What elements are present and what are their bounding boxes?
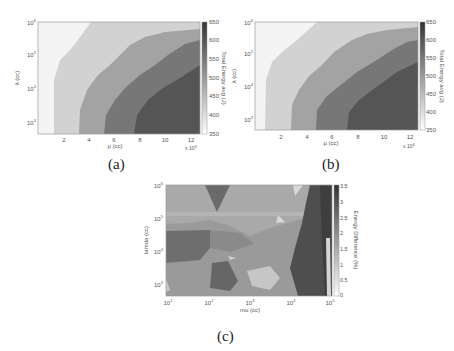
svg-text:500: 500 xyxy=(426,73,437,79)
x-ticks-b: 246 81012 xyxy=(279,134,414,140)
contour-regions-c xyxy=(166,185,332,296)
svg-text:103: 103 xyxy=(244,115,254,123)
y-axis-label-a: λ (cc) xyxy=(14,71,20,86)
svg-text:104: 104 xyxy=(154,247,164,255)
svg-text:400: 400 xyxy=(426,109,437,115)
x-ticks-c: 101 102 103 104 105 xyxy=(164,298,336,306)
svg-text:103: 103 xyxy=(154,280,164,288)
svg-text:8: 8 xyxy=(356,134,360,140)
svg-text:102: 102 xyxy=(205,298,215,306)
colorbar-ticks-b: 650600550 500450400350 xyxy=(426,19,437,133)
colorbar-label-c: Energy Difference (%) xyxy=(353,211,359,270)
svg-text:600: 600 xyxy=(426,37,437,43)
svg-text:650: 650 xyxy=(209,19,220,25)
svg-text:400: 400 xyxy=(209,112,220,118)
svg-text:4: 4 xyxy=(87,137,91,143)
colorbar-label-b: Total Energy avg (J) xyxy=(439,49,445,102)
x-multiplier-a: x 104 xyxy=(185,144,197,150)
svg-text:2: 2 xyxy=(62,137,66,143)
y-ticks-c: 106 105 104 103 xyxy=(154,181,164,288)
svg-text:450: 450 xyxy=(209,93,220,99)
svg-text:8: 8 xyxy=(138,137,142,143)
svg-text:550: 550 xyxy=(209,56,220,62)
svg-text:1: 1 xyxy=(340,262,343,268)
svg-text:0: 0 xyxy=(340,292,343,298)
colorbar-b xyxy=(420,22,425,130)
svg-text:2.5: 2.5 xyxy=(340,215,348,221)
contour-plot-a: 650600550 500450400350 Total Energy avg … xyxy=(0,0,227,150)
chart-panel-a: 650600550 500450400350 Total Energy avg … xyxy=(0,0,227,150)
svg-text:1.5: 1.5 xyxy=(340,246,348,252)
colorbar-c xyxy=(334,185,339,296)
svg-text:350: 350 xyxy=(209,131,220,137)
y-ticks-a: 106 105 104 103 xyxy=(27,18,37,126)
svg-text:3.5: 3.5 xyxy=(340,183,348,189)
contour-plot-c: 3.532.5 21.51 0.50 Energy Difference (%)… xyxy=(130,178,360,318)
svg-text:104: 104 xyxy=(287,298,297,306)
svg-text:105: 105 xyxy=(326,298,336,306)
contour-regions-a xyxy=(38,22,200,134)
svg-text:350: 350 xyxy=(426,127,437,133)
svg-text:101: 101 xyxy=(164,298,174,306)
svg-text:104: 104 xyxy=(244,82,254,90)
svg-text:10: 10 xyxy=(162,137,169,143)
colorbar-ticks-c: 3.532.5 21.51 0.50 xyxy=(340,183,348,298)
svg-text:103: 103 xyxy=(27,118,37,126)
svg-text:4: 4 xyxy=(305,134,309,140)
x-multiplier-b: x 104 xyxy=(403,142,415,149)
x-ticks-a: 246 81012 xyxy=(62,137,195,143)
svg-text:106: 106 xyxy=(244,18,254,26)
svg-text:500: 500 xyxy=(209,75,220,81)
svg-text:3: 3 xyxy=(340,199,343,205)
contour-plot-b: 650600550 500450400350 Total Energy avg … xyxy=(227,0,454,150)
svg-text:105: 105 xyxy=(154,214,164,222)
svg-text:106: 106 xyxy=(154,181,164,189)
svg-text:103: 103 xyxy=(246,298,256,306)
caption-b: (b) xyxy=(322,156,340,173)
x-axis-label-b: μ (cc) xyxy=(323,140,338,146)
colorbar-ticks-a: 650600550 500450400350 xyxy=(209,19,220,137)
svg-text:0.5: 0.5 xyxy=(340,277,348,283)
x-axis-label-a: μ (cc) xyxy=(107,143,122,149)
svg-text:106: 106 xyxy=(27,18,37,26)
y-axis-label-c: lamda (cc) xyxy=(143,226,149,254)
svg-text:450: 450 xyxy=(426,91,437,97)
svg-text:105: 105 xyxy=(27,50,37,58)
contour-regions-b xyxy=(255,22,418,130)
svg-text:2: 2 xyxy=(340,230,343,236)
svg-text:12: 12 xyxy=(188,137,195,143)
svg-text:105: 105 xyxy=(244,49,254,57)
y-axis-label-b: λ (cc) xyxy=(231,69,237,84)
svg-text:600: 600 xyxy=(209,37,220,43)
svg-text:650: 650 xyxy=(426,19,437,25)
svg-text:550: 550 xyxy=(426,55,437,61)
chart-panel-c: 3.532.5 21.51 0.50 Energy Difference (%)… xyxy=(130,178,360,318)
caption-c: (c) xyxy=(217,328,234,345)
svg-text:10: 10 xyxy=(381,134,388,140)
chart-panel-b: 650600550 500450400350 Total Energy avg … xyxy=(227,0,454,150)
x-axis-label-c: mu (cc) xyxy=(240,307,260,313)
svg-text:2: 2 xyxy=(279,134,283,140)
colorbar-a xyxy=(202,22,207,134)
caption-a: (a) xyxy=(108,156,125,173)
svg-text:12: 12 xyxy=(407,134,414,140)
y-ticks-b: 106 105 104 103 xyxy=(244,18,254,123)
svg-text:104: 104 xyxy=(27,84,37,92)
